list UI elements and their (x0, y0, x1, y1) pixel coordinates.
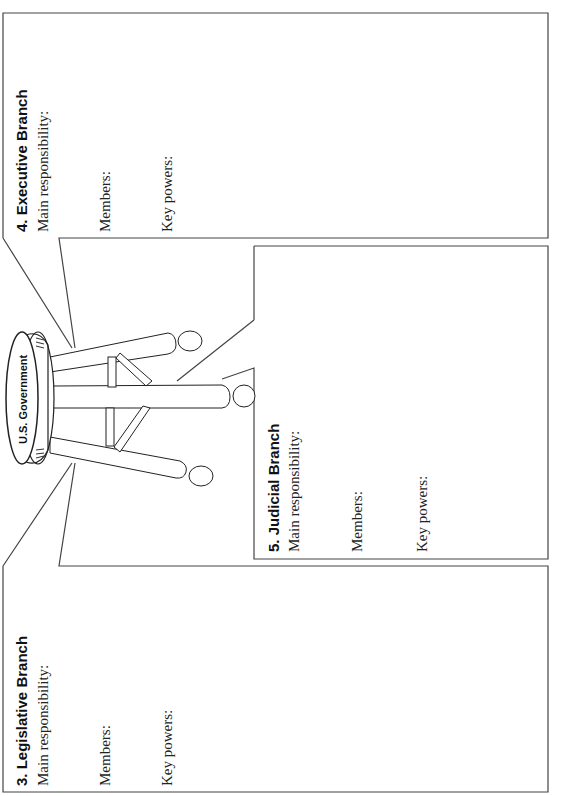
executive-main-responsibility-label: Main responsibility: (35, 111, 51, 232)
worksheet-canvas: U.S. Government 4. Executive Branch Main… (0, 0, 562, 796)
judicial-members-label: Members: (349, 491, 365, 552)
three-legged-stool-illustration: U.S. Government (6, 331, 255, 486)
stool-seat-label: U.S. Government (17, 354, 29, 444)
legislative-main-responsibility-label: Main responsibility: (35, 665, 51, 786)
executive-branch-content: 4. Executive Branch Main responsibility:… (13, 89, 175, 232)
legislative-members-label: Members: (97, 725, 113, 786)
executive-branch-box (3, 13, 548, 348)
executive-key-powers-label: Key powers: (159, 156, 175, 232)
legislative-key-powers-label: Key powers: (159, 710, 175, 786)
executive-members-label: Members: (97, 171, 113, 232)
legislative-branch-title: 3. Legislative Branch (13, 636, 30, 786)
judicial-branch-content: 5. Judicial Branch Main responsibility: … (265, 424, 430, 552)
legislative-branch-content: 3. Legislative Branch Main responsibilit… (13, 636, 175, 786)
judicial-key-powers-label: Key powers: (414, 476, 430, 552)
judicial-branch-title: 5. Judicial Branch (265, 424, 282, 552)
executive-branch-title: 4. Executive Branch (13, 89, 30, 232)
judicial-main-responsibility-label: Main responsibility: (286, 431, 302, 552)
